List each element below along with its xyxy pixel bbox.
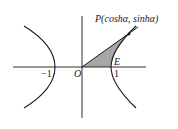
vertex-e-label: E — [114, 57, 120, 67]
point-p-label-text: P(coshα, sinhα) — [95, 13, 158, 24]
tick-label-one: 1 — [114, 69, 119, 79]
origin-label: O — [74, 69, 81, 79]
point-p-label: P(coshα, sinhα) — [95, 14, 158, 24]
tick-label-minus-one: −1 — [41, 69, 52, 79]
point-p — [128, 33, 131, 36]
